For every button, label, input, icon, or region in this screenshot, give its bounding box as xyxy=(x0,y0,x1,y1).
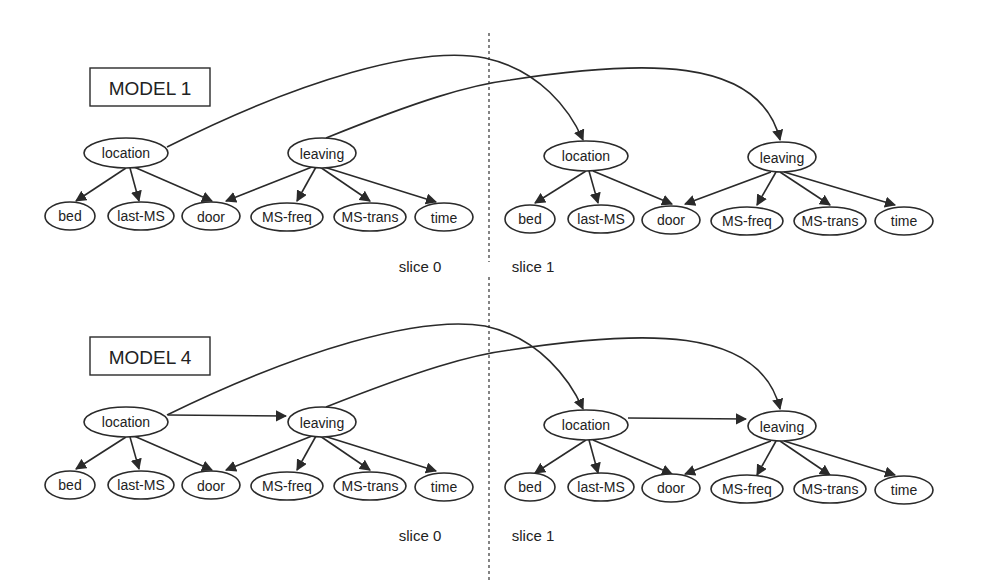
node-lastms-s1: last-MS xyxy=(568,205,634,233)
svg-text:last-MS: last-MS xyxy=(577,211,624,227)
svg-text:bed: bed xyxy=(58,208,81,224)
edge-leaving-mstrans xyxy=(320,167,370,201)
node-bed-m4-s0: bed xyxy=(45,471,95,499)
node-door-s0: door xyxy=(182,202,240,230)
edge-location0-location1-m4 xyxy=(167,324,583,415)
edge-leaving0-leaving1 xyxy=(326,68,780,140)
edge-location-leaving-s1 xyxy=(628,418,746,419)
svg-text:MS-trans: MS-trans xyxy=(342,478,399,494)
node-mstrans-m4-s0: MS-trans xyxy=(334,472,406,500)
node-time-m4-s0: time xyxy=(415,473,473,501)
svg-text:time: time xyxy=(891,482,918,498)
svg-text:location: location xyxy=(102,414,150,430)
edge-location-door-m4-s1 xyxy=(593,440,672,474)
model-4-title-box: MODEL 4 xyxy=(90,337,210,375)
edge-location-bed-m4-s1 xyxy=(535,440,586,473)
svg-text:leaving: leaving xyxy=(300,146,344,162)
svg-text:MS-freq: MS-freq xyxy=(262,209,312,225)
model-4-title: MODEL 4 xyxy=(109,347,192,368)
node-leaving-m4-s0: leaving xyxy=(288,407,356,437)
model-1-slice-1-label: slice 1 xyxy=(512,258,555,275)
edge-leaving-time-m4-s1 xyxy=(784,441,895,475)
edge-leaving-time-s1 xyxy=(784,172,895,205)
svg-text:slice 1: slice 1 xyxy=(512,527,555,544)
svg-text:slice 0: slice 0 xyxy=(399,258,442,275)
node-location-m4-s0: location xyxy=(84,407,168,437)
svg-text:MS-freq: MS-freq xyxy=(262,478,312,494)
svg-text:bed: bed xyxy=(518,211,541,227)
edge-leaving-mstrans-m4-s1 xyxy=(780,441,830,475)
node-mstrans-s0: MS-trans xyxy=(334,203,406,231)
edge-leaving-door-m4-s1 xyxy=(685,441,771,474)
edge-leaving-mstrans-s1 xyxy=(780,172,830,205)
edge-location-bed-s1 xyxy=(535,171,586,203)
svg-text:time: time xyxy=(891,213,918,229)
svg-text:slice 1: slice 1 xyxy=(512,258,555,275)
node-msfreq-m4-s0: MS-freq xyxy=(251,472,323,500)
node-door-m4-s0: door xyxy=(182,471,240,499)
node-location-m4-s1: location xyxy=(544,410,628,440)
model-4-slice-1-label: slice 1 xyxy=(512,527,555,544)
dbn-diagram: MODEL 1 location leaving bed last-MS doo… xyxy=(0,0,982,584)
node-door-m4-s1: door xyxy=(642,474,700,502)
svg-text:last-MS: last-MS xyxy=(117,208,164,224)
model-1-title: MODEL 1 xyxy=(109,78,192,99)
svg-text:MS-freq: MS-freq xyxy=(722,213,772,229)
node-location-s0: location xyxy=(84,138,168,168)
svg-text:last-MS: last-MS xyxy=(577,479,624,495)
edge-location-door-m4 xyxy=(134,436,212,470)
node-mstrans-s1: MS-trans xyxy=(794,207,866,235)
node-bed-s1: bed xyxy=(505,205,555,233)
model-1-title-box: MODEL 1 xyxy=(90,68,210,106)
svg-text:location: location xyxy=(102,145,150,161)
svg-text:time: time xyxy=(431,210,458,226)
svg-text:MS-trans: MS-trans xyxy=(802,481,859,497)
svg-text:leaving: leaving xyxy=(760,150,804,166)
node-leaving-m4-s1: leaving xyxy=(748,411,816,441)
edge-leaving-time xyxy=(324,167,436,202)
edge-location-leaving-s0 xyxy=(168,415,286,416)
svg-text:MS-trans: MS-trans xyxy=(342,209,399,225)
node-leaving-s0: leaving xyxy=(288,138,356,168)
svg-text:door: door xyxy=(657,480,685,496)
node-msfreq-m4-s1: MS-freq xyxy=(711,475,783,503)
node-lastms-m4-s0: last-MS xyxy=(108,471,174,499)
svg-text:door: door xyxy=(197,478,225,494)
svg-text:MS-freq: MS-freq xyxy=(722,481,772,497)
svg-text:leaving: leaving xyxy=(760,419,804,435)
edge-leaving-time-m4 xyxy=(324,436,436,471)
node-location-s1: location xyxy=(544,141,628,171)
edge-leaving-door-s1 xyxy=(685,172,771,204)
svg-text:location: location xyxy=(562,417,610,433)
svg-text:location: location xyxy=(562,148,610,164)
edge-location-door-s1 xyxy=(593,171,672,204)
edge-location-bed xyxy=(76,168,126,201)
node-bed-m4-s1: bed xyxy=(505,473,555,501)
svg-text:leaving: leaving xyxy=(300,415,344,431)
node-lastms-s0: last-MS xyxy=(108,202,174,230)
svg-text:bed: bed xyxy=(58,477,81,493)
node-bed-s0: bed xyxy=(45,202,95,230)
node-msfreq-s0: MS-freq xyxy=(251,203,323,231)
svg-text:slice 0: slice 0 xyxy=(399,527,442,544)
svg-text:door: door xyxy=(197,209,225,225)
svg-text:time: time xyxy=(431,479,458,495)
edge-leaving-mstrans-m4 xyxy=(320,436,370,470)
edge-location-door xyxy=(134,167,212,201)
node-msfreq-s1: MS-freq xyxy=(711,207,783,235)
node-time-s0: time xyxy=(415,203,473,231)
svg-text:last-MS: last-MS xyxy=(117,477,164,493)
edge-location-lastms-s1 xyxy=(589,171,598,203)
edge-location-bed-m4 xyxy=(76,437,126,469)
svg-text:bed: bed xyxy=(518,479,541,495)
node-mstrans-m4-s1: MS-trans xyxy=(794,475,866,503)
node-leaving-s1: leaving xyxy=(748,142,816,172)
model-4-slice-0-label: slice 0 xyxy=(399,527,442,544)
svg-text:door: door xyxy=(657,212,685,228)
node-lastms-m4-s1: last-MS xyxy=(568,473,634,501)
edge-location-lastms-m4-s1 xyxy=(589,440,598,473)
edge-leaving0-leaving1-m4 xyxy=(326,338,780,409)
edge-location0-location1 xyxy=(167,55,583,147)
node-door-s1: door xyxy=(642,206,700,234)
edge-location-lastms-m4 xyxy=(130,437,139,469)
